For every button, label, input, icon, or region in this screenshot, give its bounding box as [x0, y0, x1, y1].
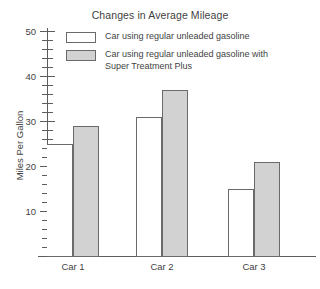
chart-title: Changes in Average Mileage [0, 9, 320, 21]
y-tick-label-50: 50 [10, 26, 36, 37]
y-axis-minor-tick [42, 58, 53, 59]
y-axis-minor-tick [42, 94, 53, 95]
legend-label-super: Car using regular unleaded gasoline with… [105, 49, 268, 72]
y-axis-minor-tick [42, 40, 53, 41]
y-axis-label: Miles Per Gallon [14, 96, 25, 196]
y-axis-major-tick [40, 31, 55, 32]
bar-car1-regular [47, 144, 73, 257]
y-axis-minor-tick [42, 130, 53, 131]
y-axis-minor-tick [42, 139, 53, 140]
chart-legend: Car using regular unleaded gasoline Car … [66, 31, 268, 78]
bar-car3-super [254, 162, 280, 257]
y-tick-label-20: 20 [10, 161, 36, 172]
y-tick-label-10: 10 [10, 206, 36, 217]
legend-label-regular: Car using regular unleaded gasoline [105, 31, 250, 43]
bar-car2-super [162, 90, 188, 257]
legend-swatch-regular-icon [66, 32, 96, 43]
y-axis-minor-tick [42, 85, 53, 86]
bar-chart: Changes in Average Mileage Miles Per Gal… [0, 0, 320, 289]
x-tick-label-car3: Car 3 [219, 261, 289, 272]
y-axis-minor-tick [42, 67, 53, 68]
x-tick-label-car2: Car 2 [127, 261, 197, 272]
y-axis-minor-tick [42, 103, 53, 104]
y-axis-minor-tick [42, 112, 53, 113]
legend-item-regular: Car using regular unleaded gasoline [66, 31, 268, 43]
y-axis-minor-tick [42, 49, 53, 50]
bar-car1-super [73, 126, 99, 257]
legend-item-super: Car using regular unleaded gasoline with… [66, 49, 268, 72]
bar-car3-regular [228, 189, 254, 257]
y-tick-label-40: 40 [10, 71, 36, 82]
legend-swatch-super-icon [66, 50, 96, 61]
y-axis-major-tick [40, 121, 55, 122]
bar-car2-regular [136, 117, 162, 257]
y-axis-major-tick [40, 76, 55, 77]
y-tick-label-30: 30 [10, 116, 36, 127]
x-tick-label-car1: Car 1 [38, 261, 108, 272]
